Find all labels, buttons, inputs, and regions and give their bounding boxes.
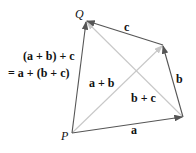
- diagonal-b-plus-c-label: b + c: [131, 92, 156, 104]
- vector-b-label: b: [176, 73, 183, 85]
- diagonal-a-plus-b: [72, 46, 162, 133]
- equation-line-2: = a + (b + c): [8, 67, 70, 79]
- equation-line-1: (a + b) + c: [23, 50, 75, 62]
- point-p-label: P: [61, 130, 68, 142]
- vector-a-label: a: [131, 124, 137, 136]
- diagonal-a-plus-b-label: a + b: [89, 77, 115, 89]
- point-q-label: Q: [75, 8, 84, 20]
- vector-c-label: c: [124, 21, 129, 33]
- vector-a: [72, 117, 182, 133]
- resultant-vector: [72, 22, 86, 133]
